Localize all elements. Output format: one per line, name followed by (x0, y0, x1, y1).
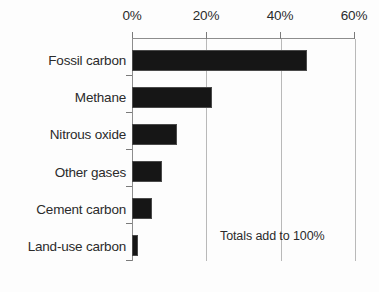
gridline-40 (281, 39, 282, 261)
x-axis-tick-3 (354, 32, 355, 39)
bar-methane (132, 87, 212, 108)
x-tick-label-2: 40% (267, 8, 293, 23)
bar-fossil-carbon (132, 50, 307, 71)
x-tick-label-1: 20% (193, 8, 219, 23)
y-tick-label-cement-carbon: Cement carbon (0, 202, 126, 217)
x-axis-tick-2 (280, 32, 281, 39)
x-axis-tick-1 (206, 32, 207, 39)
gridline-60 (355, 39, 356, 261)
bar-other-gases (132, 161, 162, 182)
bar-land-use-carbon (132, 235, 138, 256)
y-tick-label-land-use-carbon: Land-use carbon (0, 239, 126, 254)
x-tick-label-0: 0% (122, 8, 141, 23)
y-tick-label-methane: Methane (0, 90, 126, 105)
y-tick-label-fossil-carbon: Fossil carbon (0, 53, 126, 68)
bar-cement-carbon (132, 198, 152, 219)
gridline-20 (206, 39, 207, 261)
y-tick-label-other-gases: Other gases (0, 165, 126, 180)
x-tick-label-3: 60% (341, 8, 367, 23)
chart-annotation: Totals add to 100% (220, 229, 325, 243)
bar-chart: 0% 20% 40% 60% Fossil carbon Methane Nit… (0, 0, 379, 292)
plot-area (132, 39, 355, 261)
bar-nitrous-oxide (132, 124, 177, 145)
y-tick-label-nitrous-oxide: Nitrous oxide (0, 127, 126, 142)
